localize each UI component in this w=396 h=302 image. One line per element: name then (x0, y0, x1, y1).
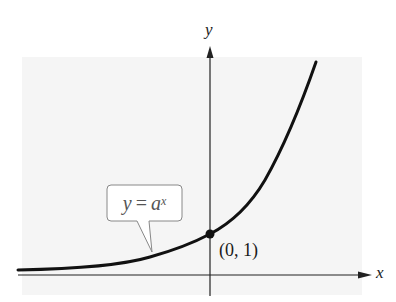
x-axis-arrow-icon (358, 272, 372, 279)
background-panel (22, 57, 362, 295)
equation-base: a (151, 192, 161, 215)
equation-exponent: x (161, 194, 166, 209)
point-label: (0, 1) (219, 240, 258, 261)
intercept-point (206, 230, 215, 239)
x-axis-label: x (376, 263, 384, 283)
exponential-graph: y x (0, 1) y = a x (0, 0, 396, 302)
equation-lhs: y (123, 192, 132, 215)
equation-equals: = (136, 192, 147, 215)
callout-equation: y = a x (107, 185, 182, 221)
y-axis-label: y (205, 20, 213, 40)
y-axis-arrow-icon (207, 46, 214, 58)
